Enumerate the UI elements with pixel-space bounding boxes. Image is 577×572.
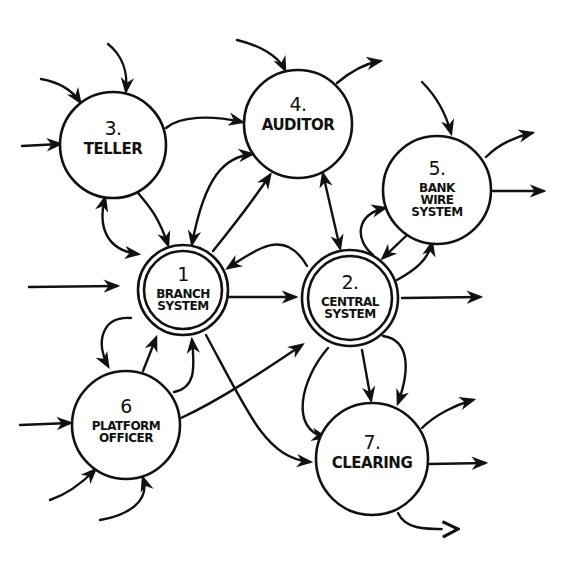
edge-ext-to-auditor [237,40,285,70]
node-number: 3. [84,119,142,138]
edge-ext-to-teller-top [108,44,126,91]
edge-central-to-branch-curve [228,244,307,268]
edge-teller-to-auditor [166,118,242,128]
node-text-line: AUDITOR [262,118,334,133]
edge-branch-teller-loop [103,198,138,254]
edge-clearing-to-ext-bottomright [398,513,458,529]
node-number: 6 [92,397,161,416]
edge-branch-to-platform-loop [102,318,131,366]
edge-ext-to-teller-topleft [41,79,80,102]
node-number: 4. [262,95,334,114]
edge-ext-to-bankwire [422,82,451,133]
label-teller: 3. TELLER [84,119,142,157]
edge-platform-to-branch-loop [174,340,193,392]
node-text-line: SYSTEM [321,308,379,320]
edge-central-to-bankwire [397,243,432,280]
label-clearing: 7. CLEARING [332,433,412,471]
edge-auditor-to-ext [337,61,380,83]
edge-branch-to-clearing [206,335,310,462]
node-text-line: CLEARING [332,456,412,471]
edge-ext-to-platform-left [20,423,70,425]
node-number: 2. [321,273,379,292]
node-number: 1 [156,265,210,284]
label-platform-officer: 6 PLATFORM OFFICER [92,397,161,444]
label-central-system: 2. CENTRAL SYSTEM [321,273,379,320]
edge-bankwire-to-ext-topright [486,133,532,157]
edge-branch-to-auditor [213,175,270,251]
edge-clearing-to-ext-right [430,463,485,464]
label-bank-wire-system: 5. BANK WIRE SYSTEM [411,159,462,218]
edge-platform-to-central [181,345,302,418]
edge-bankwire-to-central [383,235,407,258]
edge-clearing-to-ext-topright [422,400,473,428]
edge-platform-to-branch [143,338,156,371]
edge-central-to-clearing-left [303,348,328,437]
edge-teller-to-branch [138,193,168,245]
edge-central-to-clearing-right [383,336,406,403]
edge-ext-to-platform-bottom [100,478,144,520]
node-text-line: OFFICER [92,432,161,444]
node-number: 5. [411,159,462,178]
data-flow-diagram [0,0,577,572]
node-text-line: SYSTEM [156,300,210,312]
edge-ext-to-teller-left [22,144,60,146]
label-auditor: 4. AUDITOR [262,95,334,133]
node-number: 7. [332,433,412,452]
edge-ext-to-branch [29,286,117,287]
node-text-line: SYSTEM [411,206,462,218]
edge-central-to-ext [402,297,480,298]
label-branch-system: 1 BRANCH SYSTEM [156,265,210,312]
edge-central-to-bankwire-loop [361,208,385,255]
edge-central-to-clearing-mid [362,350,371,400]
edge-auditor-to-branch-curve [192,154,252,244]
node-text-line: TELLER [84,142,142,157]
edge-ext-to-platform-bottomleft [50,470,95,500]
edge-auditor-to-central [323,174,340,248]
